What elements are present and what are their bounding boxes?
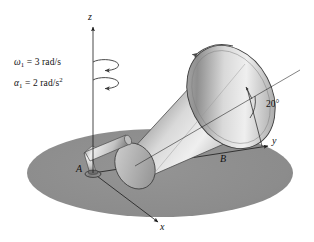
z-axis-label: z	[88, 12, 92, 22]
alpha-equals: =	[23, 78, 33, 88]
alpha-superscript: 2	[59, 76, 63, 83]
diagram-canvas	[0, 0, 314, 242]
point-a-label: A	[76, 164, 82, 174]
omega-annotation: ω1 = 3 rad/s	[14, 58, 61, 69]
point-b-label: B	[220, 154, 226, 164]
omega-value: 3 rad/s	[35, 57, 61, 67]
omega-rotation-arrow	[93, 60, 119, 71]
x-axis-label: x	[160, 222, 164, 232]
y-axis-label: y	[272, 136, 276, 146]
omega-equals: =	[24, 57, 34, 67]
alpha-value: 2 rad/s	[33, 78, 59, 88]
cone-angle-label: 20°	[266, 100, 279, 110]
physics-diagram-figure: z y x A B ω1 = 3 rad/s α1 = 2 rad/s2 20°	[0, 0, 314, 242]
omega-symbol: ω	[14, 57, 21, 67]
alpha-rotation-arrow	[93, 78, 119, 89]
alpha-annotation: α1 = 2 rad/s2	[14, 77, 63, 90]
